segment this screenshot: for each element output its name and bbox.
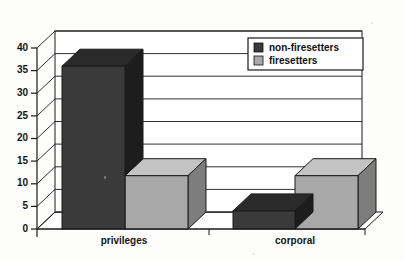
- x-label-corporal: corporal: [275, 235, 315, 246]
- x-label-privileges: privileges: [101, 235, 148, 246]
- chart-legend: non-firesetters firesetters: [248, 38, 363, 70]
- legend-label-non-firesetters: non-firesetters: [269, 42, 339, 53]
- bar-front-face: [233, 211, 295, 229]
- y-tick-label-40: 40: [17, 42, 29, 53]
- y-tick-label-15: 15: [17, 155, 29, 166]
- legend-swatch-non-firesetters: [254, 43, 263, 52]
- chart-canvas: 40 35 30 25 20 15 10 5 0: [0, 0, 404, 261]
- y-tick-label-30: 30: [17, 87, 29, 98]
- scan-speck: [104, 176, 106, 179]
- bar-corporal-non-firesetters: [233, 194, 313, 229]
- y-tick-label-25: 25: [17, 110, 29, 121]
- scan-speck: [252, 253, 255, 255]
- bar-privileges-firesetters: [125, 159, 206, 229]
- legend-label-firesetters: firesetters: [269, 55, 318, 66]
- y-tick-label-20: 20: [17, 132, 29, 143]
- bar-front-face: [125, 176, 188, 229]
- bar-chart: 40 35 30 25 20 15 10 5 0: [0, 0, 404, 261]
- bar-front-face: [62, 66, 125, 229]
- y-tick-label-10: 10: [17, 177, 29, 188]
- y-tick-label-5: 5: [22, 200, 28, 211]
- bar-side-face: [125, 49, 143, 176]
- scan-speck: [371, 22, 373, 24]
- scan-speck: [17, 105, 19, 107]
- legend-swatch-firesetters: [254, 56, 263, 65]
- y-tick-label-0: 0: [22, 223, 28, 234]
- y-tick-label-35: 35: [17, 64, 29, 75]
